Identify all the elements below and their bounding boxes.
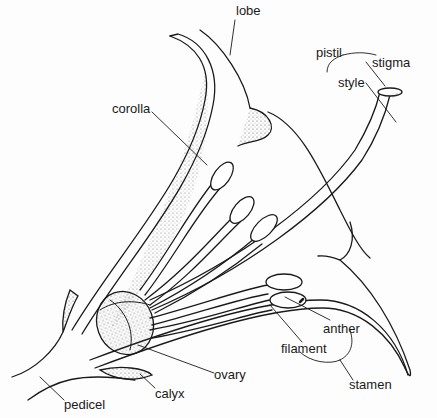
label-pedicel: pedicel (64, 398, 105, 411)
receptacle-upper (12, 332, 63, 377)
back-petal-fold (238, 108, 271, 146)
right-petal (318, 222, 352, 260)
filament-4 (150, 285, 268, 318)
label-filament: filament (281, 342, 327, 355)
anther-4 (266, 274, 302, 290)
sepal-left (63, 290, 78, 332)
label-ovary: ovary (214, 368, 246, 381)
back-petal-edge (268, 112, 370, 258)
label-calyx: calyx (155, 387, 185, 400)
label-stamen: stamen (349, 378, 392, 391)
label-lobe: lobe (236, 4, 261, 17)
anther-1 (206, 158, 237, 193)
label-anther: anther (323, 322, 360, 335)
label-stigma: stigma (372, 56, 410, 69)
label-corolla: corolla (112, 102, 150, 115)
label-style: style (338, 76, 365, 89)
anther-2 (226, 193, 259, 228)
label-pistil: pistil (316, 46, 342, 59)
flower-diagram: lobe pistil stigma style corolla anther … (0, 0, 437, 418)
